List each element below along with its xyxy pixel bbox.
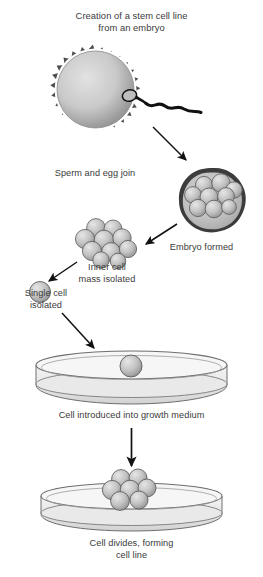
arrow-to-inner-cell-mass <box>146 224 177 244</box>
label-single-cell-isolated: Single cell isolated <box>0 288 92 311</box>
egg-cell <box>57 51 134 128</box>
sperm-icon <box>121 88 201 112</box>
petri-dish-with-single-cell <box>36 351 227 404</box>
arrow-to-embryo <box>153 127 186 160</box>
arrow-to-petri-dish <box>62 313 94 348</box>
label-cell-divides-forming-cell-line: Cell divides, forming cell line <box>0 538 263 561</box>
figure-title: Creation of a stem cell line from an emb… <box>0 10 263 34</box>
dish-cell <box>120 355 142 377</box>
label-sperm-and-egg-join: Sperm and egg join <box>0 168 190 180</box>
label-inner-cell-mass-isolated: Inner cell mass isolated <box>52 262 162 285</box>
label-embryo-formed: Embryo formed <box>140 242 263 254</box>
petri-dish-with-cell-colony <box>41 469 222 531</box>
label-cell-introduced-into-growth-medium: Cell introduced into growth medium <box>0 410 263 422</box>
egg-and-sperm-illustration <box>50 45 140 131</box>
